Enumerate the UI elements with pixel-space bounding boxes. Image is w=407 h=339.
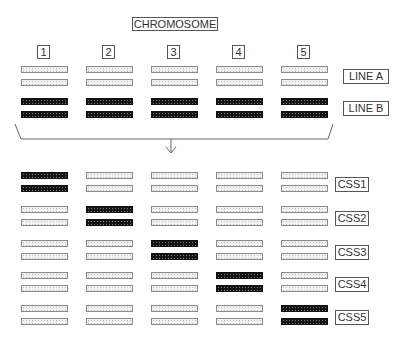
strain-label-css2: CSS2 [335, 211, 369, 226]
chromosome-bar [281, 172, 328, 179]
chromosome-bar [21, 172, 68, 179]
chromosome-bar [21, 185, 68, 192]
chromosome-bar [216, 253, 263, 260]
chromosome-bar [86, 285, 133, 292]
chromosome-bar [21, 219, 68, 226]
chromosome-bar [216, 206, 263, 213]
chromosome-bar [21, 285, 68, 292]
chromosome-bar [281, 305, 328, 312]
chromosome-bar [151, 185, 198, 192]
bracket-line [15, 124, 333, 139]
chromosome-bar [281, 185, 328, 192]
chromosome-bar [216, 318, 263, 325]
chromosome-bar [216, 305, 263, 312]
chromosome-bar [86, 185, 133, 192]
chromosome-bar [151, 318, 198, 325]
chromosome-bar [151, 219, 198, 226]
chromosome-bar [151, 285, 198, 292]
chromosome-bar [281, 272, 328, 279]
chromosome-bar [281, 253, 328, 260]
chromosome-bar [86, 253, 133, 260]
chromosome-bar [151, 253, 198, 260]
chromosome-bar [216, 185, 263, 192]
chromosome-bar [21, 206, 68, 213]
chromosome-bar [216, 172, 263, 179]
chromosome-bar [216, 219, 263, 226]
chromosome-bar [21, 318, 68, 325]
chromosome-bar [151, 172, 198, 179]
chromosome-bar [86, 305, 133, 312]
strain-label-css1: CSS1 [335, 177, 369, 192]
chromosome-bar [281, 219, 328, 226]
chromosome-bar [281, 206, 328, 213]
strain-label-css4: CSS4 [335, 277, 369, 292]
strain-label-css5: CSS5 [335, 310, 369, 325]
chromosome-bar [86, 272, 133, 279]
chromosome-bar [86, 206, 133, 213]
chromosome-bar [86, 318, 133, 325]
chromosome-bar [281, 318, 328, 325]
chromosome-bar [281, 285, 328, 292]
chromosome-bar [21, 305, 68, 312]
chromosome-bar [151, 240, 198, 247]
chromosome-bar [86, 172, 133, 179]
chromosome-bar [21, 253, 68, 260]
chromosome-bar [151, 305, 198, 312]
chromosome-bar [151, 206, 198, 213]
chromosome-bar [21, 240, 68, 247]
chromosome-bar [216, 240, 263, 247]
strain-label-css3: CSS3 [335, 245, 369, 260]
chromosome-bar [216, 285, 263, 292]
chromosome-bar [21, 272, 68, 279]
chromosome-bar [281, 240, 328, 247]
chromosome-bar [86, 219, 133, 226]
chromosome-bar [216, 272, 263, 279]
chromosome-bar [86, 240, 133, 247]
chromosome-bar [151, 272, 198, 279]
